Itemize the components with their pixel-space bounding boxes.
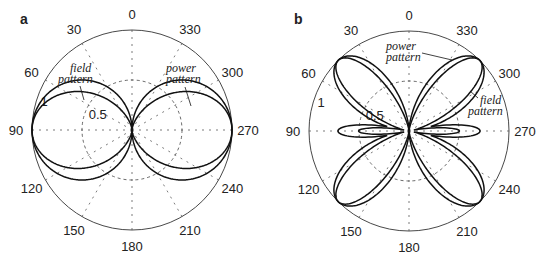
annotation-field-pattern-a-line2: pattern xyxy=(57,72,93,86)
angle-tick-label: 300 xyxy=(222,65,244,80)
angular-grid-line xyxy=(45,80,132,130)
panel-label-a: a xyxy=(20,11,28,27)
angle-tick-label: 60 xyxy=(301,66,315,81)
annotation-arrow-power-b xyxy=(422,53,452,60)
angle-tick-label: 30 xyxy=(67,22,81,37)
angle-tick-label: 150 xyxy=(63,223,85,238)
angle-tick-label: 270 xyxy=(514,124,536,139)
angular-grid-line xyxy=(409,131,496,181)
angular-grid-line xyxy=(409,131,459,218)
angular-grid-line xyxy=(132,80,219,130)
angle-tick-label: 120 xyxy=(21,181,43,196)
angle-tick-label: 210 xyxy=(179,223,201,238)
angle-tick-label: 60 xyxy=(24,65,38,80)
angular-grid-line xyxy=(322,81,409,131)
angle-tick-label: 150 xyxy=(340,224,362,239)
angle-tick-label: 210 xyxy=(456,224,478,239)
angle-tick-label: 120 xyxy=(298,182,320,197)
angle-tick-label: 300 xyxy=(499,66,521,81)
annotation-arrow-field-a xyxy=(80,86,84,100)
angular-grid-line xyxy=(132,130,219,180)
panel-b: b 03060901201501802102402703003300.51 po… xyxy=(286,8,536,255)
annotation-power-pattern-b-line2: pattern xyxy=(385,50,421,64)
angle-tick-label: 330 xyxy=(179,22,201,37)
panel-a: a 03060901201501802102402703003300.51 fi… xyxy=(9,7,259,254)
angle-tick-label: 270 xyxy=(237,123,259,138)
angle-tick-label: 0 xyxy=(405,8,412,23)
angle-tick-label: 240 xyxy=(222,181,244,196)
angle-tick-label: 330 xyxy=(456,23,478,38)
annotation-field-pattern-b-line2: pattern xyxy=(467,104,503,118)
angle-tick-label: 0 xyxy=(128,7,135,22)
angle-tick-label: 90 xyxy=(286,124,300,139)
figure: a 03060901201501802102402703003300.51 fi… xyxy=(0,0,547,264)
angle-tick-label: 90 xyxy=(9,123,23,138)
radial-tick-label: 1 xyxy=(317,95,324,110)
radial-tick-label: 0.5 xyxy=(89,107,107,122)
angle-tick-label: 180 xyxy=(398,240,420,255)
annotation-power-pattern-a-line2: pattern xyxy=(165,72,201,86)
angular-grid-line xyxy=(322,131,409,181)
series-power-pattern xyxy=(336,58,482,204)
angle-tick-label: 180 xyxy=(121,239,143,254)
angle-tick-label: 30 xyxy=(344,23,358,38)
panel-label-b: b xyxy=(294,11,303,27)
angle-tick-label: 240 xyxy=(499,182,521,197)
angular-grid-line xyxy=(45,130,132,180)
angular-grid-line xyxy=(359,131,409,218)
annotation-arrow-power-a xyxy=(185,87,191,106)
